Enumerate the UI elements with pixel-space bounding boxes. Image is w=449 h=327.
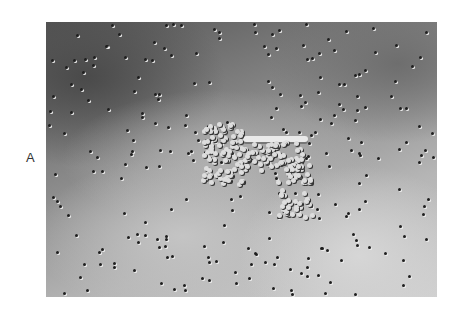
particle	[267, 53, 270, 56]
particle	[431, 132, 434, 135]
panel-label: A	[26, 150, 35, 165]
particle	[405, 107, 408, 110]
particle	[222, 241, 225, 244]
colony-cell	[259, 168, 264, 173]
particle	[321, 247, 324, 250]
particle	[285, 131, 288, 134]
particle	[113, 266, 116, 269]
particle	[164, 245, 167, 248]
particle	[405, 141, 408, 144]
colony-cell	[310, 213, 315, 218]
particle	[208, 81, 211, 84]
particle	[133, 269, 136, 272]
particle	[124, 56, 127, 59]
particle	[137, 76, 140, 79]
colony-cell	[286, 180, 291, 185]
particle	[330, 122, 333, 125]
colony-cell	[205, 139, 210, 144]
particle	[80, 88, 83, 91]
colony-cell	[218, 168, 223, 173]
particle	[59, 205, 62, 208]
particle	[144, 58, 147, 61]
particle	[384, 252, 387, 255]
particle	[92, 64, 95, 67]
colony-cell	[277, 213, 282, 218]
particle	[194, 131, 197, 134]
particle	[267, 80, 270, 83]
particle	[268, 237, 271, 240]
particle	[208, 279, 211, 282]
particle	[318, 52, 321, 55]
colony-cell	[302, 178, 307, 183]
particle	[153, 41, 156, 44]
particle	[305, 157, 308, 160]
particle	[170, 54, 173, 57]
particle	[358, 182, 361, 185]
particle	[56, 251, 59, 254]
colony-cell	[279, 193, 284, 198]
colony-cell	[286, 205, 291, 210]
particle	[190, 150, 193, 153]
colony-cell	[223, 158, 228, 163]
particle	[355, 239, 358, 242]
particle	[358, 208, 361, 211]
particle	[51, 59, 54, 62]
colony-cell	[284, 167, 289, 172]
particle	[377, 157, 380, 160]
particle	[310, 134, 313, 137]
colony-cell	[221, 138, 226, 143]
colony-cell	[225, 169, 230, 174]
particle	[154, 122, 157, 125]
colony-cell	[291, 178, 296, 183]
particle	[364, 106, 367, 109]
particle	[263, 45, 266, 48]
particle	[218, 31, 221, 34]
particle	[398, 148, 401, 151]
particle	[141, 116, 144, 119]
particle	[319, 76, 322, 79]
particle	[99, 263, 102, 266]
particle	[184, 289, 187, 292]
particle	[197, 139, 200, 142]
particle	[173, 288, 176, 291]
particle	[317, 193, 320, 196]
particle	[328, 165, 331, 168]
particle	[333, 114, 336, 117]
colony-cell	[252, 142, 257, 147]
colony-cell	[299, 157, 304, 162]
particle	[306, 275, 309, 278]
colony-cell	[217, 143, 222, 148]
particle	[294, 192, 297, 195]
colony-cell	[286, 158, 291, 163]
colony-cell	[250, 150, 255, 155]
particle	[52, 95, 55, 98]
particle	[239, 195, 242, 198]
particle	[52, 196, 55, 199]
particle	[356, 244, 359, 247]
particle	[308, 142, 311, 145]
particle	[230, 198, 233, 201]
colony-cell	[239, 170, 244, 175]
particle	[402, 284, 405, 287]
particle	[278, 29, 281, 32]
particle	[299, 94, 302, 97]
colony-cell	[290, 212, 295, 217]
particle	[159, 149, 162, 152]
particle	[314, 131, 317, 134]
particle	[184, 124, 187, 127]
particle	[356, 95, 359, 98]
particle	[158, 165, 161, 168]
particle	[408, 275, 411, 278]
particle	[364, 200, 367, 203]
particle	[171, 255, 174, 258]
particle	[169, 150, 172, 153]
particle	[338, 103, 341, 106]
colony-cell	[307, 163, 312, 168]
particle	[127, 236, 130, 239]
particle	[49, 110, 52, 113]
particle	[105, 45, 108, 48]
particle	[305, 23, 308, 26]
particle	[82, 71, 85, 74]
particle	[215, 260, 218, 263]
particle	[167, 126, 170, 129]
